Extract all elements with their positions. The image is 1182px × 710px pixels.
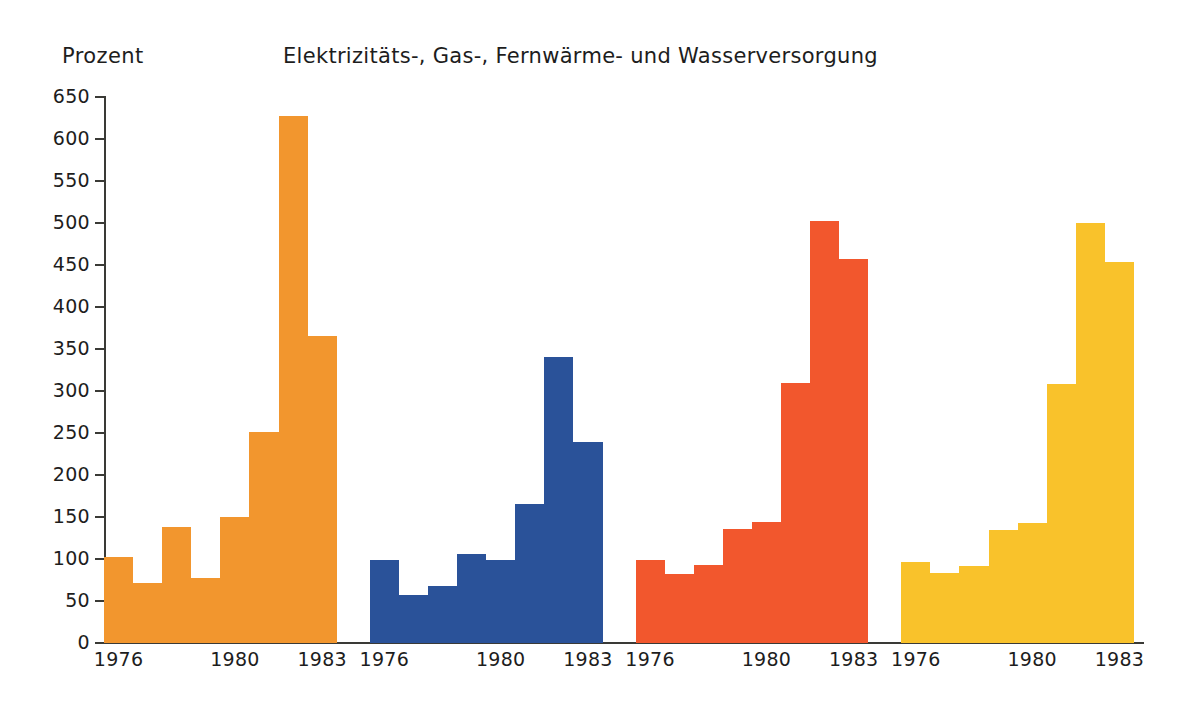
bar bbox=[839, 259, 868, 643]
bar bbox=[1047, 384, 1076, 643]
bar bbox=[220, 517, 249, 643]
y-tick-label: 200 bbox=[53, 463, 90, 485]
x-tick-label: 1983 bbox=[829, 648, 879, 670]
bar bbox=[723, 529, 752, 643]
y-tick-mark bbox=[95, 432, 104, 434]
bar-group: 197619801983 bbox=[370, 97, 603, 643]
bar bbox=[930, 573, 959, 643]
bar bbox=[544, 357, 573, 643]
bar bbox=[308, 336, 337, 643]
bar bbox=[162, 527, 191, 643]
bar bbox=[573, 442, 602, 643]
y-axis-label: Prozent bbox=[62, 44, 144, 68]
x-tick-label: 1983 bbox=[563, 648, 613, 670]
bar-series bbox=[901, 97, 1134, 643]
x-tick-label: 1980 bbox=[742, 648, 792, 670]
bar-group: 197619801983 bbox=[901, 97, 1134, 643]
y-tick-mark bbox=[95, 348, 104, 350]
x-axis-ticks: 197619801983 bbox=[370, 648, 603, 678]
y-tick-label: 650 bbox=[53, 85, 90, 107]
bar-series bbox=[104, 97, 337, 643]
y-tick-mark bbox=[95, 390, 104, 392]
bar bbox=[399, 595, 428, 643]
y-tick-label: 0 bbox=[78, 631, 90, 653]
y-tick-label: 400 bbox=[53, 295, 90, 317]
y-tick-label: 350 bbox=[53, 337, 90, 359]
x-axis-ticks: 197619801983 bbox=[901, 648, 1134, 678]
bar bbox=[249, 432, 278, 643]
bar bbox=[191, 578, 220, 643]
y-tick-mark bbox=[95, 96, 104, 98]
y-tick-mark bbox=[95, 474, 104, 476]
bar bbox=[1018, 523, 1047, 643]
x-tick-label: 1980 bbox=[210, 648, 260, 670]
x-axis-ticks: 197619801983 bbox=[104, 648, 337, 678]
y-tick-mark bbox=[95, 642, 104, 644]
y-tick-mark bbox=[95, 600, 104, 602]
bar bbox=[457, 554, 486, 643]
y-tick-mark bbox=[95, 138, 104, 140]
chart-title: Elektrizitäts-, Gas-, Fernwärme- und Was… bbox=[283, 44, 878, 68]
x-tick-label: 1976 bbox=[891, 648, 941, 670]
y-tick-mark bbox=[95, 264, 104, 266]
plot-area: 050100150200250300350400450500550600650 … bbox=[104, 97, 1134, 643]
x-axis-ticks: 197619801983 bbox=[636, 648, 869, 678]
bar bbox=[515, 504, 544, 643]
bar bbox=[133, 583, 162, 643]
bar bbox=[486, 560, 515, 643]
bar bbox=[901, 562, 930, 643]
y-tick-label: 100 bbox=[53, 547, 90, 569]
bar bbox=[959, 566, 988, 643]
bar bbox=[1105, 262, 1134, 643]
chart-figure: Prozent Elektrizitäts-, Gas-, Fernwärme-… bbox=[0, 0, 1182, 710]
bar bbox=[781, 383, 810, 643]
y-tick-label: 50 bbox=[65, 589, 90, 611]
y-tick-label: 150 bbox=[53, 505, 90, 527]
x-tick-label: 1976 bbox=[625, 648, 675, 670]
y-tick-mark bbox=[95, 180, 104, 182]
y-tick-label: 600 bbox=[53, 127, 90, 149]
x-tick-label: 1976 bbox=[94, 648, 144, 670]
y-tick-mark bbox=[95, 516, 104, 518]
bar bbox=[370, 560, 399, 643]
bar bbox=[636, 560, 665, 643]
bar bbox=[810, 221, 839, 643]
bar bbox=[104, 557, 133, 643]
bar-group: 197619801983 bbox=[104, 97, 337, 643]
bar-series bbox=[636, 97, 869, 643]
bar bbox=[428, 586, 457, 643]
y-tick-mark bbox=[95, 558, 104, 560]
x-tick-label: 1983 bbox=[1095, 648, 1145, 670]
x-tick-label: 1983 bbox=[297, 648, 347, 670]
y-tick-label: 450 bbox=[53, 253, 90, 275]
bar bbox=[279, 116, 308, 643]
bar bbox=[694, 565, 723, 643]
x-tick-label: 1976 bbox=[360, 648, 410, 670]
y-tick-label: 250 bbox=[53, 421, 90, 443]
y-tick-label: 550 bbox=[53, 169, 90, 191]
y-tick-label: 300 bbox=[53, 379, 90, 401]
y-tick-mark bbox=[95, 306, 104, 308]
bar-group: 197619801983 bbox=[636, 97, 869, 643]
bar bbox=[752, 522, 781, 643]
bar bbox=[989, 530, 1018, 643]
y-tick-mark bbox=[95, 222, 104, 224]
x-tick-label: 1980 bbox=[1007, 648, 1057, 670]
bar-series bbox=[370, 97, 603, 643]
bar bbox=[665, 574, 694, 643]
y-tick-label: 500 bbox=[53, 211, 90, 233]
bar bbox=[1076, 223, 1105, 643]
x-tick-label: 1980 bbox=[476, 648, 526, 670]
